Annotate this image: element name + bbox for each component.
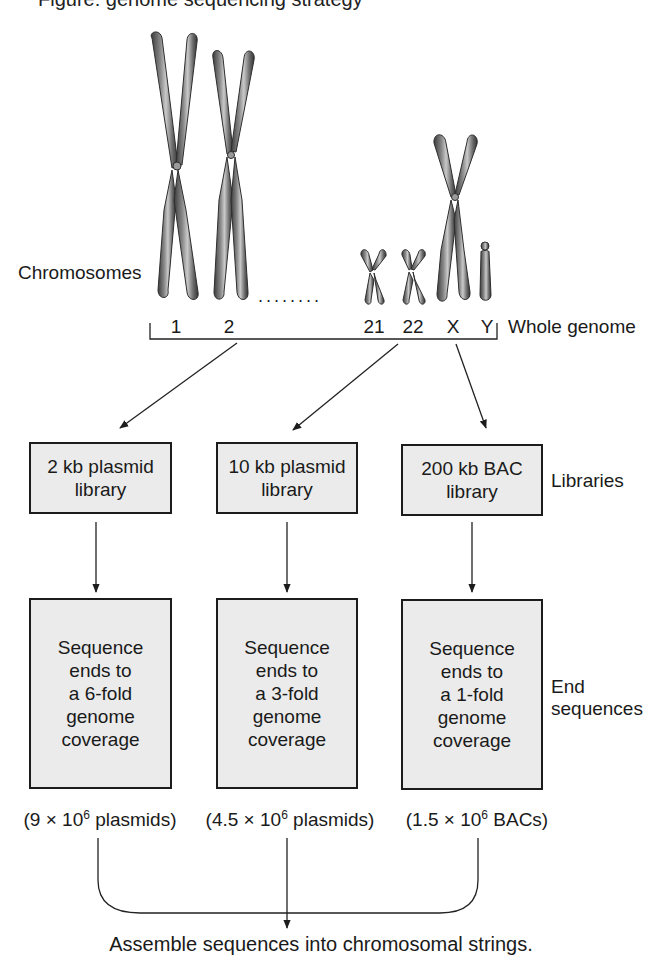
count-2-prefix: (4.5 × 10 bbox=[206, 809, 282, 830]
chromosome-1-icon bbox=[151, 32, 198, 300]
arrow-to-2kb-library bbox=[120, 343, 237, 428]
library-box-2kb-line1: 2 kb plasmid bbox=[47, 455, 154, 478]
seq-box-2-line4: genome bbox=[244, 705, 330, 728]
assemble-step-label: Assemble sequences into chromosomal stri… bbox=[109, 933, 533, 956]
chromosome-number-21: 21 bbox=[363, 316, 384, 338]
arrow-to-200kb-library bbox=[456, 344, 486, 428]
library-box-bac-line1: 200 kb BAC bbox=[421, 457, 522, 480]
chromosome-number-22: 22 bbox=[402, 316, 423, 338]
seq-box-3-line1: Sequence bbox=[429, 637, 515, 660]
chromosome-number-x: X bbox=[447, 316, 460, 338]
chromosomes-label: Chromosomes bbox=[18, 262, 142, 284]
seq-box-1-line4: genome bbox=[58, 705, 144, 728]
count-10kb-plasmids: (4.5 × 106 plasmids) bbox=[206, 809, 375, 831]
seq-box-2-line1: Sequence bbox=[244, 636, 330, 659]
chromosome-number-1: 1 bbox=[171, 316, 182, 338]
library-box-200kb-bac: 200 kb BAC library bbox=[401, 444, 543, 516]
seq-box-1-line3: a 6-fold bbox=[58, 682, 144, 705]
chromosome-number-2: 2 bbox=[224, 316, 235, 338]
chromosome-x-icon bbox=[434, 135, 477, 301]
chromosome-number-y: Y bbox=[481, 316, 494, 338]
end-sequence-box-1fold: Sequence ends to a 1-fold genome coverag… bbox=[401, 599, 543, 790]
end-sequences-label-line2: sequences bbox=[551, 698, 643, 720]
chromosome-ellipsis: ........ bbox=[258, 286, 322, 306]
chromosome-y-icon bbox=[480, 242, 491, 300]
seq-box-3-line4: genome bbox=[429, 706, 515, 729]
library-box-10kb-line2: library bbox=[228, 478, 345, 501]
seq-box-2-line2: ends to bbox=[244, 659, 330, 682]
whole-genome-bracket bbox=[150, 323, 497, 339]
library-box-10kb-line1: 10 kb plasmid bbox=[228, 455, 345, 478]
count-1-suffix: plasmids) bbox=[90, 809, 177, 830]
seq-box-1-line2: ends to bbox=[58, 659, 144, 682]
chromosome-22-icon bbox=[402, 250, 425, 304]
end-sequences-label-line1: End bbox=[551, 676, 643, 698]
count-2-suffix: plasmids) bbox=[288, 809, 375, 830]
count-2kb-plasmids: (9 × 106 plasmids) bbox=[24, 809, 177, 831]
library-box-2kb: 2 kb plasmid library bbox=[29, 442, 172, 514]
seq-box-3-line3: a 1-fold bbox=[429, 683, 515, 706]
seq-box-2-line3: a 3-fold bbox=[244, 682, 330, 705]
chromosome-21-icon bbox=[361, 250, 386, 304]
library-box-bac-line2: library bbox=[421, 480, 522, 503]
chromosome-2-icon bbox=[213, 51, 254, 300]
seq-box-2-line5: coverage bbox=[244, 728, 330, 751]
library-box-10kb: 10 kb plasmid library bbox=[216, 442, 358, 514]
library-box-2kb-line2: library bbox=[47, 478, 154, 501]
end-sequence-box-3fold: Sequence ends to a 3-fold genome coverag… bbox=[216, 598, 358, 789]
cut-off-title: Figure: genome sequencing strategy bbox=[38, 0, 363, 11]
end-sequence-box-6fold: Sequence ends to a 6-fold genome coverag… bbox=[29, 598, 172, 789]
count-3-prefix: (1.5 × 10 bbox=[406, 809, 482, 830]
seq-box-3-line5: coverage bbox=[429, 729, 515, 752]
end-sequences-row-label: End sequences bbox=[551, 676, 643, 720]
arrow-to-10kb-library bbox=[293, 344, 398, 430]
count-1-prefix: (9 × 10 bbox=[24, 809, 84, 830]
count-3-suffix: BACs) bbox=[488, 809, 548, 830]
merge-bracket bbox=[98, 838, 478, 913]
whole-genome-label: Whole genome bbox=[508, 316, 636, 338]
seq-box-1-line5: coverage bbox=[58, 728, 144, 751]
seq-box-1-line1: Sequence bbox=[58, 636, 144, 659]
count-bacs: (1.5 × 106 BACs) bbox=[406, 809, 548, 831]
seq-box-3-line2: ends to bbox=[429, 660, 515, 683]
libraries-row-label: Libraries bbox=[551, 470, 624, 492]
